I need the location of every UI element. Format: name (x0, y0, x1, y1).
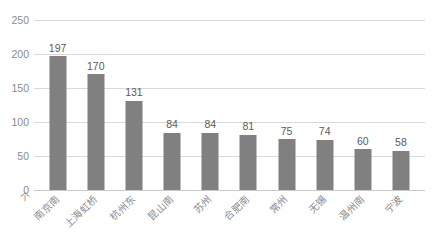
x-axis-label-slot: 昆山南 (153, 190, 191, 245)
x-axis-label-slot: 宁波 (382, 190, 420, 245)
bar-slot: 58 (382, 20, 420, 190)
bar-slot: 75 (267, 20, 305, 190)
x-axis-tick-label: 苏州 (192, 194, 213, 215)
x-axis-label-slot: 无锡 (306, 190, 344, 245)
y-axis-tick-label: 50 (17, 151, 29, 162)
bar[interactable] (278, 139, 295, 190)
bar-value-label: 170 (87, 61, 105, 72)
bar[interactable] (87, 74, 104, 190)
x-axis-tick-label: 无锡 (306, 194, 327, 215)
bar-slot: 84 (153, 20, 191, 190)
bar-value-label: 84 (204, 119, 216, 130)
bar-value-label: 84 (166, 119, 178, 130)
bar-slot: 197 (39, 20, 77, 190)
bar-value-label: 75 (281, 126, 293, 137)
x-axis-tick-label: 南京南 (32, 194, 60, 222)
x-axis-category-labels: 南京南上海虹桥杭州东昆山南苏州合肥南常州无锡温州南宁波 (34, 190, 425, 245)
bar[interactable] (316, 140, 333, 190)
bar[interactable] (354, 149, 371, 190)
x-axis-label-slot: 常州 (267, 190, 305, 245)
bar-value-label: 58 (395, 137, 407, 148)
bar-value-label: 197 (49, 43, 67, 54)
x-axis-label-slot: 温州南 (344, 190, 382, 245)
bar-value-label: 74 (319, 126, 331, 137)
x-axis-label-slot: 合肥南 (229, 190, 267, 245)
bar-value-label: 131 (125, 87, 143, 98)
bar[interactable] (240, 135, 257, 190)
y-axis-tick-label: 100 (11, 117, 29, 128)
bar-slot: 60 (344, 20, 382, 190)
x-axis-tick-label: 常州 (268, 194, 289, 215)
y-axis-tick-label: 200 (11, 49, 29, 60)
y-axis-unit-label: 个 (20, 193, 30, 203)
bar-slot: 74 (306, 20, 344, 190)
x-axis-label-slot: 上海虹桥 (77, 190, 115, 245)
bar-slot: 84 (191, 20, 229, 190)
bar-slot: 131 (115, 20, 153, 190)
bar[interactable] (49, 56, 66, 190)
x-axis-label-slot: 苏州 (191, 190, 229, 245)
bar-slot: 81 (229, 20, 267, 190)
bar-chart: 050100150200250 19717013184848175746058 … (0, 0, 435, 245)
bar[interactable] (392, 151, 409, 190)
x-axis-tick-label: 宁波 (383, 194, 404, 215)
bar[interactable] (164, 133, 181, 190)
plot-area: 19717013184848175746058 (34, 20, 425, 190)
y-axis: 050100150200250 (0, 0, 34, 245)
bar-value-label: 81 (243, 121, 255, 132)
y-axis-tick-label: 150 (11, 83, 29, 94)
bar[interactable] (202, 133, 219, 190)
x-axis-label-slot: 杭州东 (115, 190, 153, 245)
bar-value-label: 60 (357, 136, 369, 147)
y-axis-tick-label: 250 (11, 15, 29, 26)
bar[interactable] (125, 101, 142, 190)
bar-slot: 170 (77, 20, 115, 190)
